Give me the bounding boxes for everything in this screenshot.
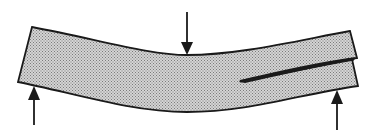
right-support-arrow — [331, 90, 343, 130]
load-arrow — [181, 12, 193, 55]
beam-bending-diagram — [0, 0, 374, 138]
beam-body — [18, 27, 358, 112]
left-support-arrow — [28, 86, 40, 125]
